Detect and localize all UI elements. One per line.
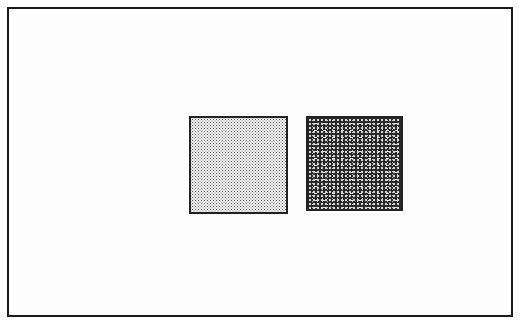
light-textured-square bbox=[189, 116, 288, 214]
dark-textured-square bbox=[306, 116, 403, 211]
